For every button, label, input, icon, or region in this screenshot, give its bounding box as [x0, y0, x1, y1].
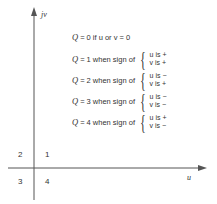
rule-q2: Q = 2 when sign of { u is − v is + — [72, 71, 167, 89]
sign-stack: u is − v is + — [150, 72, 167, 88]
sign-stack: u is + v is + — [150, 51, 167, 67]
horizontal-axis-label: u — [187, 174, 191, 182]
rule-q1: Q = 1 when sign of { u is + v is + — [72, 50, 167, 68]
quadrant-3-label: 3 — [18, 178, 22, 186]
quadrant-1-label: 1 — [45, 151, 49, 159]
brace-icon: { — [140, 92, 146, 110]
quadrant-4-label: 4 — [45, 178, 49, 186]
brace-icon: { — [140, 50, 146, 68]
brace-icon: { — [140, 113, 146, 131]
rule-text: = 0 if u or v = 0 — [80, 33, 130, 42]
rule-q0: Q = 0 if u or v = 0 — [72, 33, 130, 42]
horizontal-arrow-icon — [198, 165, 207, 171]
sign-stack: u is − v is − — [150, 93, 167, 109]
vertical-axis-label: jv — [41, 11, 47, 19]
sign-stack: u is + v is − — [150, 114, 167, 130]
rule-text: = 1 when sign of — [80, 55, 135, 64]
rule-text: = 3 when sign of — [80, 97, 135, 106]
vertical-arrow-icon — [31, 7, 37, 16]
rule-q3: Q = 3 when sign of { u is − v is − — [72, 92, 167, 110]
quadrant-2-label: 2 — [18, 151, 22, 159]
brace-icon: { — [140, 71, 146, 89]
rule-text: = 4 when sign of — [80, 118, 135, 127]
rule-text: = 2 when sign of — [80, 76, 135, 85]
rule-q4: Q = 4 when sign of { u is + v is − — [72, 113, 167, 131]
